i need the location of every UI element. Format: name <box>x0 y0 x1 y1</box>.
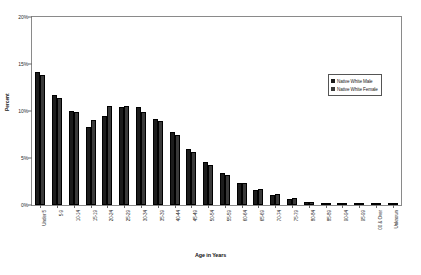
bar-group <box>82 120 99 205</box>
x-tick-label: 75-79 <box>294 210 299 221</box>
plot-area: 0%5%10%15%20%Under 55-910-1415-1920-2425… <box>32 17 401 205</box>
bar-group <box>200 162 217 205</box>
bar-female <box>225 175 230 205</box>
chart-legend: Native White Male Native White Female <box>328 74 382 96</box>
bar-female <box>191 152 196 205</box>
x-tick-mark <box>376 205 377 208</box>
x-tick-mark <box>40 205 41 208</box>
x-tick-label: 70-74 <box>277 210 282 221</box>
x-axis-title: Age in Years <box>0 252 421 258</box>
x-tick-label: Under 5 <box>42 210 47 226</box>
y-tick-label: 10% <box>18 108 28 114</box>
bar-female <box>91 120 96 205</box>
y-tick-mark <box>28 64 32 65</box>
bar-group <box>267 194 284 205</box>
legend-item-male: Native White Male <box>331 77 378 85</box>
bar-female <box>40 75 45 205</box>
y-tick-label: 20% <box>18 14 28 20</box>
x-tick-label: 55-59 <box>227 210 232 221</box>
bar-female <box>292 198 297 205</box>
bar-female <box>158 121 163 205</box>
bar-group <box>66 111 83 205</box>
bar-group <box>133 107 150 205</box>
x-tick-mark <box>158 205 159 208</box>
x-tick-label: 50-54 <box>210 210 215 221</box>
x-tick-label: 00 & Over <box>378 210 383 230</box>
y-tick-mark <box>28 17 32 18</box>
x-tick-mark <box>225 205 226 208</box>
x-tick-label: 95-99 <box>361 210 366 221</box>
legend-item-female: Native White Female <box>331 85 378 93</box>
x-tick-label: 30-34 <box>143 210 148 221</box>
bar-female <box>242 183 247 205</box>
x-tick-mark <box>208 205 209 208</box>
x-tick-mark <box>124 205 125 208</box>
x-tick-label: 80-84 <box>311 210 316 221</box>
plot-frame: 0%5%10%15%20%Under 55-910-1415-1920-2425… <box>31 16 402 206</box>
x-tick-label: 85-89 <box>327 210 332 221</box>
bar-group <box>166 132 183 205</box>
x-tick-label: 20-24 <box>109 210 114 221</box>
x-tick-label: Unknown <box>394 210 399 228</box>
y-tick-label: 15% <box>18 61 28 67</box>
x-tick-label: 45-49 <box>193 210 198 221</box>
legend-swatch-male <box>331 79 335 83</box>
x-tick-label: 65-69 <box>260 210 265 221</box>
x-tick-mark <box>91 205 92 208</box>
x-tick-mark <box>393 205 394 208</box>
bar-group <box>250 189 267 205</box>
bar-female <box>208 165 213 205</box>
y-axis-title: Percent <box>4 93 10 111</box>
bar-female <box>57 98 62 205</box>
bar-female <box>124 106 129 205</box>
bar-group <box>32 72 49 205</box>
bar-group <box>99 106 116 205</box>
x-tick-label: 15-19 <box>93 210 98 221</box>
x-tick-label: 5-9 <box>59 210 64 216</box>
bar-female <box>107 106 112 205</box>
x-tick-mark <box>359 205 360 208</box>
y-tick-label: 0% <box>21 202 28 208</box>
bar-group <box>149 119 166 205</box>
x-tick-mark <box>242 205 243 208</box>
x-tick-mark <box>57 205 58 208</box>
bar-group <box>49 95 66 205</box>
bar-group <box>233 183 250 205</box>
chart-figure: Percent 0%5%10%15%20%Under 55-910-1415-1… <box>0 0 421 275</box>
bar-female <box>175 135 180 205</box>
x-tick-mark <box>309 205 310 208</box>
bar-female <box>275 194 280 205</box>
legend-label-female: Native White Female <box>337 87 378 92</box>
bar-group <box>284 198 301 205</box>
x-tick-mark <box>175 205 176 208</box>
bar-group <box>116 106 133 205</box>
x-tick-mark <box>275 205 276 208</box>
x-tick-mark <box>292 205 293 208</box>
bar-group <box>217 173 234 205</box>
bar-female <box>141 112 146 205</box>
x-tick-mark <box>342 205 343 208</box>
x-tick-mark <box>191 205 192 208</box>
x-tick-label: 35-39 <box>160 210 165 221</box>
x-tick-label: 10-14 <box>76 210 81 221</box>
bar-female <box>74 112 79 205</box>
x-tick-mark <box>326 205 327 208</box>
legend-label-male: Native White Male <box>337 79 373 84</box>
x-tick-mark <box>258 205 259 208</box>
x-tick-mark <box>74 205 75 208</box>
x-tick-label: 60-64 <box>243 210 248 221</box>
x-tick-label: 40-44 <box>176 210 181 221</box>
y-tick-label: 5% <box>21 155 28 161</box>
x-tick-mark <box>107 205 108 208</box>
x-tick-mark <box>141 205 142 208</box>
x-tick-label: 90-94 <box>344 210 349 221</box>
legend-swatch-female <box>331 87 335 91</box>
bar-female <box>258 189 263 205</box>
x-tick-label: 25-29 <box>126 210 131 221</box>
bar-group <box>183 149 200 205</box>
